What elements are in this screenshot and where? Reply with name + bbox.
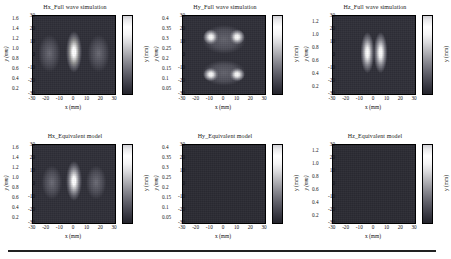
field-noise-texture [33,16,115,94]
x-tick-label: -10 [56,224,63,230]
y-tick-label: 20 [17,154,35,160]
x-tick-label: -20 [342,224,349,230]
colorbar [422,15,433,95]
colorbar-tick-label: 0.4 [162,15,168,21]
x-axis-label: x (mm) [32,233,114,239]
x-tick-label: 30 [111,95,116,101]
y-tick-label: -20 [167,77,185,83]
x-axis-label: x (mm) [32,104,114,110]
x-tick-label: 30 [261,224,266,230]
y-axis-label: y (mm) [303,175,309,190]
x-tick-label: -20 [342,95,349,101]
y-axis-label: y (mm) [153,175,159,190]
y-tick-label: 30 [167,141,185,147]
x-tick-label: 20 [248,95,253,101]
x-tick-label: -30 [179,95,186,101]
x-tick-label: 10 [84,224,89,230]
x-tick-label: 20 [98,95,103,101]
colorbar-tick-label: 0.8 [12,184,18,190]
y-tick-label: 0 [317,51,335,57]
y-tick-label: 10 [167,167,185,173]
colorbar-tick-label: 0.15 [162,194,171,200]
x-tick-label: 20 [98,224,103,230]
x-tick-label: -30 [179,224,186,230]
figure-magnetic-near-field-comparison: Hx_Full wave simulation 30 20 10 0 -10 -… [0,0,451,259]
x-tick-label: -20 [42,224,49,230]
y-tick-label: 0 [317,180,335,186]
x-axis-label: x (mm) [182,104,264,110]
y-tick-label: 20 [17,25,35,31]
panel-hx-full-wave: Hx_Full wave simulation 30 20 10 0 -10 -… [0,0,150,122]
colorbar-label: y (mm) [293,46,299,62]
colorbar-tick-label: 0.1 [162,75,168,81]
y-tick-label: 10 [167,38,185,44]
y-tick-label: -10 [317,193,335,199]
colorbar-tick-label: 1.6 [12,15,18,21]
colorbar-tick-label: 1.0 [12,174,18,180]
y-tick-label: 10 [317,167,335,173]
colorbar [422,144,433,224]
colorbar-tick-label: 1.4 [12,154,18,160]
panel-title: Hz_Equivalent model [300,133,450,139]
x-tick-label: 10 [234,95,239,101]
plot-area [332,15,416,95]
colorbar-tick-label: 1.0 [312,160,318,166]
field-noise-texture [333,145,415,223]
colorbar-tick-label: 0.4 [12,75,18,81]
x-tick-label: 30 [111,224,116,230]
x-tick-label: 10 [84,95,89,101]
colorbar-tick-label: 0.6 [312,57,318,63]
x-tick-label: 0 [72,95,75,101]
panel-hz-full-wave: Hz_Full wave simulation 30 20 10 0 -10 -… [300,0,450,122]
colorbar-tick-label: 0.8 [312,44,318,50]
colorbar-tick-label: 0.4 [312,199,318,205]
colorbar-label: y (mm) [293,175,299,191]
panel-title: Hy_Equivalent model [150,133,300,139]
colorbar-tick-label: 0.2 [12,214,18,220]
colorbar [122,15,133,95]
x-tick-label: 20 [248,224,253,230]
colorbar-tick-label: 1.2 [12,35,18,41]
x-tick-label: 0 [372,224,375,230]
x-tick-label: -30 [329,224,336,230]
panel-hx-equivalent-model: Hx_Equivalent model 30 20 10 0 -10 -20 -… [0,129,150,251]
y-tick-label: 0 [17,51,35,57]
panel-title: Hx_Full wave simulation [0,4,150,10]
panel-hy-equivalent-model: Hy_Equivalent model 30 20 10 0 -10 -20 -… [150,129,300,251]
x-tick-label: -10 [206,95,213,101]
colorbar-tick-label: 1.2 [312,147,318,153]
colorbar-tick-label: 0.2 [312,83,318,89]
field-noise-texture [333,16,415,94]
y-tick-label: -10 [17,64,35,70]
colorbar-tick-label: 1.6 [12,144,18,150]
x-tick-label: -30 [329,95,336,101]
plot-area [32,144,116,224]
y-tick-label: 20 [317,25,335,31]
panel-hz-equivalent-model: Hz_Equivalent model 30 20 10 0 -10 -20 -… [300,129,450,251]
y-tick-label: -20 [167,206,185,212]
y-tick-label: -20 [317,77,335,83]
colorbar-tick-label: 0.15 [162,65,171,71]
colorbar-tick-label: 1.2 [312,18,318,24]
colorbar [272,15,283,95]
colorbar-tick-label: 1.4 [12,25,18,31]
colorbar-label: y (mm) [143,175,149,191]
x-tick-label: -20 [192,224,199,230]
y-tick-label: 30 [17,141,35,147]
colorbar-tick-label: 0.4 [162,144,168,150]
colorbar-tick-label: 0.2 [12,85,18,91]
x-tick-label: 30 [261,95,266,101]
y-tick-label: 30 [17,12,35,18]
x-tick-label: 30 [411,95,416,101]
x-tick-label: -20 [42,95,49,101]
plot-area [332,144,416,224]
colorbar-tick-label: 1.2 [12,164,18,170]
y-tick-label: 0 [17,180,35,186]
y-tick-label: -10 [317,64,335,70]
x-axis-label: x (mm) [332,104,414,110]
x-tick-label: -20 [192,95,199,101]
y-tick-label: 0 [167,51,185,57]
y-tick-label: -20 [17,206,35,212]
panel-title: Hx_Equivalent model [0,133,150,139]
colorbar-tick-label: 0.6 [12,65,18,71]
